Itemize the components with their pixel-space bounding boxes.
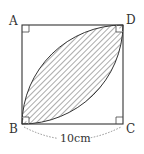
- vertex-label-d: D: [126, 13, 136, 27]
- vertex-label-c: C: [126, 122, 135, 136]
- square-lens-diagram: A D B C 10cm: [0, 0, 144, 154]
- dimension-label: 10cm: [60, 132, 91, 145]
- right-angle-mark-a: [22, 25, 29, 32]
- vertex-label-b: B: [9, 122, 18, 136]
- vertex-label-a: A: [8, 14, 18, 28]
- shaded-lens-region: [22, 25, 123, 124]
- right-angle-mark-c: [116, 117, 123, 124]
